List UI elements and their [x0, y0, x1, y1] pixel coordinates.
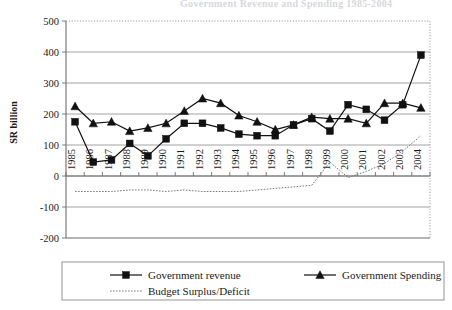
chart-legend[interactable]: Government revenueGovernment SpendingBud… — [62, 262, 444, 300]
x-tick-label-1993: 1993 — [212, 149, 223, 170]
data-point-revenue — [236, 131, 243, 138]
data-point-revenue — [345, 101, 352, 108]
x-tick-label-1988: 1988 — [121, 149, 132, 170]
x-tick-label-1991: 1991 — [175, 149, 186, 170]
data-point-spending — [198, 94, 206, 102]
data-point-revenue — [217, 125, 224, 132]
x-tick-label-1994: 1994 — [230, 148, 241, 170]
data-point-spending — [71, 102, 79, 110]
gridlines — [62, 21, 430, 238]
x-tick-label-1985: 1985 — [66, 149, 77, 170]
data-point-spending — [235, 111, 243, 119]
x-tick-label-1996: 1996 — [266, 149, 277, 170]
legend-marker-square — [123, 272, 130, 279]
x-tick-label-1989: 1989 — [139, 149, 150, 170]
y-tick-label: 500 — [43, 16, 59, 27]
x-tick-label-1998: 1998 — [303, 149, 314, 170]
data-point-revenue — [126, 140, 133, 147]
legend-box — [62, 262, 444, 300]
x-tick-label-2000: 2000 — [339, 149, 350, 170]
x-tick-label-2004: 2004 — [412, 148, 423, 170]
data-point-revenue — [381, 117, 388, 124]
data-point-revenue — [418, 52, 425, 59]
y-tick-label: 100 — [43, 140, 59, 151]
x-tick-label-1997: 1997 — [285, 149, 296, 170]
data-point-revenue — [327, 128, 334, 135]
chart-plot-area: 5004003002001000-100-200 198519861987198… — [0, 0, 452, 310]
y-tick-label: 0 — [54, 171, 59, 182]
y-axis-ticks: 5004003002001000-100-200 — [40, 16, 59, 244]
data-point-revenue — [181, 120, 188, 127]
data-point-revenue — [145, 152, 152, 159]
legend-label-2[interactable]: Budget Surplus/Deficit — [148, 285, 250, 297]
x-tick-label-2003: 2003 — [394, 149, 405, 170]
y-tick-label: -100 — [40, 202, 59, 213]
data-point-revenue — [254, 132, 261, 139]
x-tick-label-1990: 1990 — [157, 149, 168, 170]
y-tick-label: 300 — [43, 78, 59, 89]
data-point-spending — [162, 119, 170, 127]
y-tick-label: 400 — [43, 47, 59, 58]
data-point-revenue — [363, 106, 370, 113]
y-tick-label: 200 — [43, 109, 59, 120]
data-point-revenue — [90, 159, 97, 166]
data-point-revenue — [199, 120, 206, 127]
data-point-spending — [253, 118, 261, 126]
data-point-revenue — [163, 135, 170, 142]
x-tick-label-1992: 1992 — [194, 149, 205, 170]
x-tick-label-2001: 2001 — [357, 149, 368, 170]
data-point-revenue — [108, 156, 115, 163]
y-tick-label: -200 — [40, 233, 59, 244]
legend-label-1[interactable]: Government Spending — [342, 269, 442, 281]
data-point-revenue — [72, 118, 79, 125]
legend-label-0[interactable]: Government revenue — [148, 269, 241, 281]
data-point-spending — [180, 107, 188, 115]
chart-container: Government Revenue and Spending 1985-200… — [0, 0, 452, 310]
x-tick-label-1999: 1999 — [321, 149, 332, 170]
axis-lines — [66, 21, 430, 238]
x-tick-label-1995: 1995 — [248, 149, 259, 170]
